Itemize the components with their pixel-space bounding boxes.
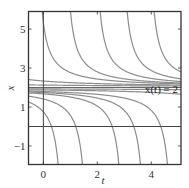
- x-tick-label: 4: [149, 168, 155, 180]
- solution-curve: [29, 96, 84, 174]
- solution-curve: [154, 4, 181, 72]
- y-tick-label: 1: [20, 101, 26, 113]
- solution-curve: [41, 3, 181, 84]
- solution-curve: [29, 93, 120, 174]
- y-tick-label: −1: [14, 140, 26, 152]
- solution-curve: [29, 91, 169, 174]
- x-axis-label: t: [101, 174, 105, 186]
- y-axis-label: x: [4, 85, 16, 91]
- solution-curve: [29, 92, 142, 174]
- x-tick-label: 0: [41, 168, 47, 180]
- y-tick-label: 5: [20, 23, 26, 35]
- solution-curve: [100, 5, 181, 81]
- equilibrium-annotation: x(t) = 2: [145, 83, 178, 96]
- y-tick-label: 3: [20, 62, 26, 74]
- chart: 024−1135 t x x(t) = 2: [0, 0, 189, 188]
- x-tick-label: 2: [95, 168, 101, 180]
